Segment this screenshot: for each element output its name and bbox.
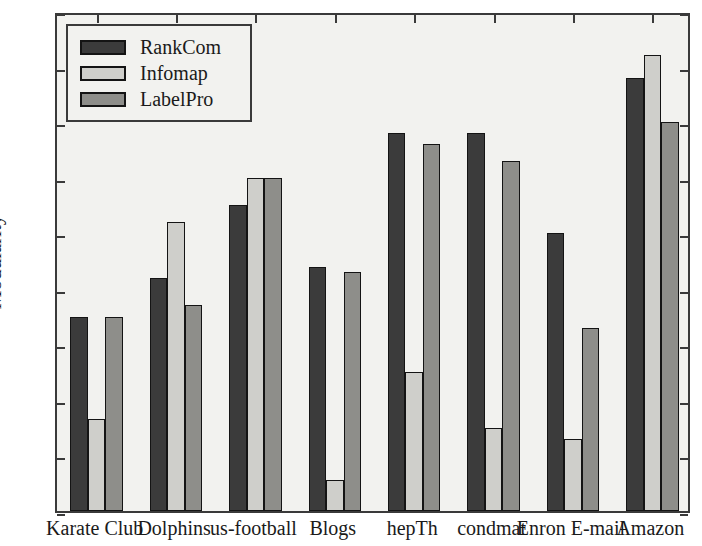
x-tick-label: Dolphins (137, 518, 210, 538)
legend-swatch-icon (80, 92, 126, 107)
bar (485, 428, 503, 511)
x-tick-label: Karate Club (46, 518, 143, 538)
bar (229, 205, 247, 511)
legend-label: LabelPro (140, 88, 213, 111)
bar (388, 133, 406, 511)
bar (105, 317, 123, 511)
x-tick-label: Amazon (616, 518, 684, 538)
bar-chart-figure: Modularity 0.00.10.20.30.40.50.60.70.80.… (0, 0, 702, 546)
y-axis-title: Modularity (0, 215, 7, 310)
bar (309, 267, 327, 511)
bar (423, 144, 441, 511)
legend-swatch-icon (80, 66, 126, 81)
bar-group (467, 15, 520, 511)
x-tick-label: Enron E-mail (517, 518, 625, 538)
bar (185, 305, 203, 511)
bar (326, 480, 344, 511)
bar-group (388, 15, 441, 511)
bar (344, 272, 362, 511)
bar (247, 178, 265, 511)
bar (70, 317, 88, 511)
bar-group (626, 15, 679, 511)
bar (167, 222, 185, 511)
bar (582, 328, 600, 511)
x-tick-label: us-football (210, 518, 297, 538)
bar (405, 372, 423, 511)
bar (88, 419, 106, 511)
x-tick-label: Blogs (309, 518, 356, 538)
bar-group (547, 15, 600, 511)
bar (547, 233, 565, 511)
legend: RankCom Infomap LabelPro (66, 24, 252, 122)
x-tick-label: hepTh (387, 518, 438, 538)
legend-label: Infomap (140, 62, 208, 85)
bar (264, 178, 282, 511)
bar (502, 161, 520, 511)
legend-item: RankCom (80, 34, 240, 60)
legend-item: LabelPro (80, 86, 240, 112)
bar (626, 78, 644, 511)
bar-group (309, 15, 362, 511)
legend-label: RankCom (140, 36, 221, 59)
bar (661, 122, 679, 511)
legend-item: Infomap (80, 60, 240, 86)
bar (150, 278, 168, 511)
y-tick-mark-right (680, 514, 688, 516)
x-tick-label: condmat (457, 518, 526, 538)
bar (467, 133, 485, 511)
legend-swatch-icon (80, 40, 126, 55)
bar (644, 55, 662, 511)
plot-area: 0.00.10.20.30.40.50.60.70.80.9 RankCom I… (55, 13, 690, 513)
y-tick-mark (57, 514, 65, 516)
bar (564, 439, 582, 511)
